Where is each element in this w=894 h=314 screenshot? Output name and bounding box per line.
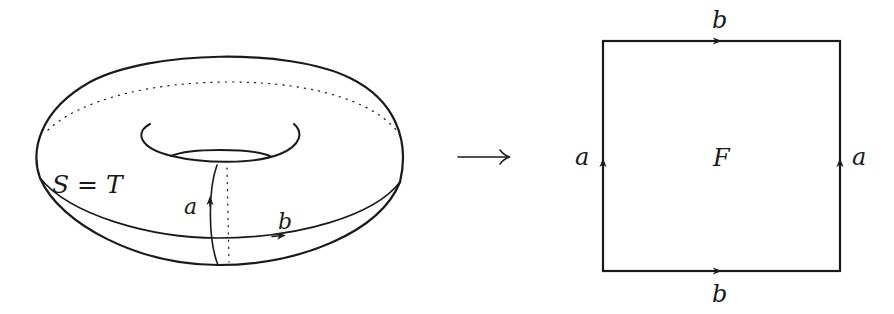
square-top-label: b xyxy=(712,6,727,34)
square-face-label: F xyxy=(712,144,731,172)
torus-b-label: b xyxy=(278,209,292,234)
torus-hole-inner-edge xyxy=(171,150,270,156)
square-left-label: a xyxy=(575,143,589,171)
torus-hidden-rim-dotted xyxy=(48,82,400,135)
torus-to-square-diagram: S = T a b b b a a F xyxy=(0,0,894,314)
torus-curve-a xyxy=(210,165,218,265)
torus-hole-upper-arc xyxy=(141,124,299,162)
torus-figure xyxy=(37,57,403,265)
square-bottom-label: b xyxy=(712,280,727,308)
torus-curve-b-arrow xyxy=(272,236,284,237)
torus-a-label: a xyxy=(184,194,197,219)
torus-label: S = T xyxy=(52,170,125,199)
torus-outer-outline xyxy=(37,57,403,182)
torus-curve-a-hidden-dotted xyxy=(227,168,229,262)
square-right-label: a xyxy=(852,143,866,171)
map-arrow xyxy=(458,150,510,164)
